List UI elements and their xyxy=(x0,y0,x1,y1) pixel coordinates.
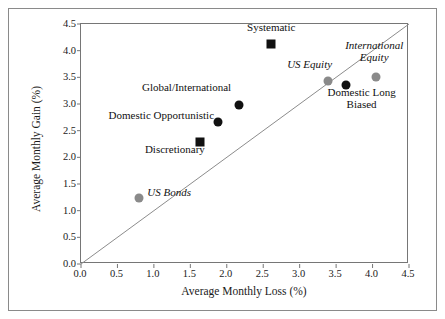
data-point-marker xyxy=(372,72,381,81)
data-point-marker xyxy=(135,193,144,202)
x-tick-label: 4.0 xyxy=(365,268,378,279)
data-point-marker xyxy=(235,101,244,110)
y-axis-tick-labels: 0.00.51.01.52.02.53.03.54.04.5 xyxy=(48,23,76,263)
x-tick-label: 0.0 xyxy=(73,268,86,279)
data-point-label: Discretionary xyxy=(145,143,205,156)
y-tick-label: 3.0 xyxy=(63,98,76,109)
x-tick-label: 4.5 xyxy=(401,268,414,279)
y-tick-label: 2.5 xyxy=(63,124,76,135)
x-tick-label: 2.5 xyxy=(256,268,269,279)
data-point-label: Global/International xyxy=(142,81,231,94)
y-tick-label: 3.5 xyxy=(63,71,76,82)
y-tick-label: 1.0 xyxy=(63,204,76,215)
x-tick-label: 0.5 xyxy=(110,268,123,279)
x-tick-label: 1.0 xyxy=(146,268,159,279)
data-point-label: Domestic Opportunistic xyxy=(109,109,214,122)
x-tick-label: 3.5 xyxy=(329,268,342,279)
y-tick-label: 2.0 xyxy=(63,151,76,162)
data-point-marker xyxy=(214,118,223,127)
y-tick-label: 4.5 xyxy=(63,18,76,29)
data-point-label: International Equity xyxy=(345,39,403,64)
y-tick-label: 0.5 xyxy=(63,231,76,242)
chart-figure: 0.00.51.01.52.02.53.03.54.04.5 0.00.51.0… xyxy=(0,0,445,319)
y-tick-label: 4.0 xyxy=(63,44,76,55)
y-tick-label: 1.5 xyxy=(63,178,76,189)
data-point-marker xyxy=(324,77,333,86)
data-point-marker xyxy=(267,40,276,49)
data-point-label: Domestic Long Biased xyxy=(328,86,396,111)
x-tick-label: 2.0 xyxy=(219,268,232,279)
x-axis-title: Average Monthly Loss (%) xyxy=(80,285,408,297)
x-tick-label: 1.5 xyxy=(183,268,196,279)
y-axis-title: Average Monthly Gain (%) xyxy=(30,49,42,249)
x-axis-tick-labels: 0.00.51.01.52.02.53.03.54.04.5 xyxy=(80,268,408,282)
plot-area: SystematicGlobal/InternationalDomestic O… xyxy=(80,23,408,263)
data-point-label: US Bonds xyxy=(147,186,191,199)
x-tick-label: 3.0 xyxy=(292,268,305,279)
data-point-label: Systematic xyxy=(247,21,295,34)
data-point-label: US Equity xyxy=(287,58,332,71)
y-tick-label: 0.0 xyxy=(63,258,76,269)
